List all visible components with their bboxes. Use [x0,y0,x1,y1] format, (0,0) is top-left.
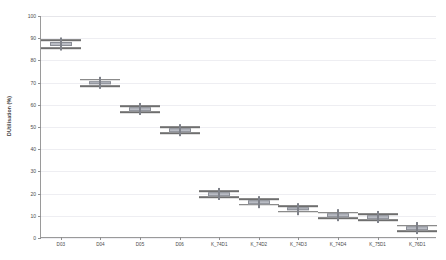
x-tick-label: K_74D2 [250,242,267,247]
y-tick-mark [38,60,41,61]
y-tick-mark [38,16,41,17]
y-tick-mark [38,105,41,106]
y-tick-label: 10 [30,213,36,219]
y-tick-label: 30 [30,168,36,174]
y-tick-label: 90 [30,35,36,41]
median-marker [179,125,181,137]
x-tick-label: D04 [96,242,104,247]
y-tick-mark [38,149,41,150]
x-tick-label: K_74D3 [290,242,307,247]
x-tick-label: K_74D4 [330,242,347,247]
x-tick-label: D05 [136,242,144,247]
median-marker [258,196,260,208]
y-axis-title: DUtilisation (%) [2,0,16,232]
gridline [41,127,436,128]
y-tick-label: 60 [30,102,36,108]
y-tick-mark [38,238,41,239]
median-marker [218,188,220,200]
x-tick-label: K_76D1 [409,242,426,247]
y-axis-title-label: DUtilisation (%) [6,96,12,136]
x-tick-mark [140,237,141,240]
median-marker [297,203,299,215]
y-tick-label: 70 [30,80,36,86]
gridline [41,194,436,195]
x-tick-label: K_74D1 [211,242,228,247]
y-tick-label: 80 [30,57,36,63]
median-marker [416,223,418,235]
y-tick-mark [38,83,41,84]
y-tick-mark [38,171,41,172]
median-marker [377,211,379,223]
x-tick-mark [219,237,220,240]
x-tick-mark [61,237,62,240]
median-marker [60,38,62,51]
y-tick-mark [38,216,41,217]
y-tick-label: 50 [30,124,36,130]
gridline [41,16,436,17]
median-marker [99,77,101,89]
y-tick-label: 100 [28,13,36,19]
x-tick-mark [100,237,101,240]
y-tick-label: 40 [30,146,36,152]
gridline [41,60,436,61]
box-plot-chart: DUtilisation (%) 0102030405060708090100 … [0,0,446,260]
x-tick-mark [338,237,339,240]
x-tick-label: D06 [175,242,183,247]
x-tick-label: K_75D1 [369,242,386,247]
x-tick-mark [417,237,418,240]
plot-area: 0102030405060708090100 D03D04D05D06K_74D… [40,16,436,238]
y-tick-mark [38,127,41,128]
gridline [41,149,436,150]
y-tick-mark [38,194,41,195]
x-tick-mark [378,237,379,240]
x-tick-mark [298,237,299,240]
gridline [41,171,436,172]
gridline [41,38,436,39]
y-tick-label: 0 [33,235,36,241]
x-tick-mark [180,237,181,240]
x-tick-label: D03 [57,242,65,247]
y-tick-label: 20 [30,191,36,197]
median-marker [139,103,141,115]
median-marker [337,210,339,222]
gridline [41,105,436,106]
x-tick-mark [259,237,260,240]
